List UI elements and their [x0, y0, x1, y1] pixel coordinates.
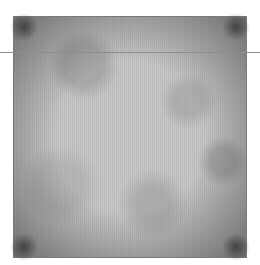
- horizontal-rule-line: [0, 52, 260, 53]
- vignette-corner-bottom-left: [10, 233, 38, 261]
- vignette-corner-top-left: [10, 13, 38, 41]
- vignette-corner-top-right: [222, 13, 250, 41]
- vignette-corner-bottom-right: [222, 233, 250, 261]
